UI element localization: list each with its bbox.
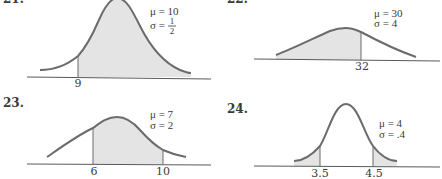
sigma-label: σ = 2 — [150, 119, 173, 131]
problem-number: 21. — [3, 0, 24, 6]
tick-label: 9 — [75, 77, 82, 90]
plot-23: 23. 6 10 μ = 7 σ = 2 — [3, 96, 211, 178]
plot-24: 24. 3.5 4.5 μ = 4 σ = .4 — [227, 102, 440, 179]
tick-label-upper: 10 — [156, 165, 170, 178]
plot-21: 21. 9 μ = 10 σ = 1 2 — [3, 0, 211, 90]
shaded-area — [276, 28, 361, 60]
sigma-label: σ = — [150, 19, 165, 31]
plot-22: 22. 32 μ = 30 σ = 4 — [227, 0, 440, 73]
mu-label: μ = 10 — [150, 5, 179, 17]
tick-label-upper: 4.5 — [365, 167, 383, 179]
tick-label-lower: 3.5 — [311, 167, 329, 179]
sigma-denominator: 2 — [170, 26, 175, 36]
sigma-numerator: 1 — [170, 16, 175, 26]
problem-number: 22. — [227, 0, 248, 6]
tick-label-lower: 6 — [91, 165, 98, 178]
x-axis — [27, 77, 211, 79]
problem-number: 23. — [3, 96, 24, 110]
normal-curves-figure: 21. 9 μ = 10 σ = 1 2 22. 32 μ = 30 σ = 4… — [0, 0, 442, 179]
problem-number: 24. — [227, 102, 248, 116]
x-axis — [27, 164, 211, 165]
sigma-label: σ = 4 — [374, 17, 398, 29]
sigma-label: σ = .4 — [379, 128, 405, 140]
tick-label: 32 — [355, 60, 369, 73]
x-axis — [254, 166, 440, 167]
